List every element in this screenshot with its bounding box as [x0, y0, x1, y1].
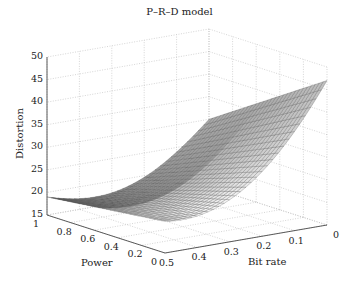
- x-tick: 0.2: [256, 240, 271, 251]
- y-tick: 1: [33, 218, 39, 229]
- z-tick: 50: [31, 50, 43, 61]
- z-tick: 35: [31, 118, 43, 129]
- z-tick: 40: [31, 95, 43, 106]
- x-tick: 0.3: [224, 246, 239, 257]
- x-tick: 0.4: [191, 251, 206, 262]
- surface-plot: [0, 0, 359, 286]
- y-tick: 0.6: [80, 233, 95, 244]
- z-tick: 45: [31, 73, 43, 84]
- z-tick: 25: [31, 163, 43, 174]
- z-tick: 30: [31, 140, 43, 151]
- y-tick: 0.8: [57, 226, 72, 237]
- x-axis-label: Bit rate: [248, 256, 286, 267]
- y-tick: 0.2: [127, 248, 142, 259]
- y-tick: 0: [151, 256, 157, 267]
- x-tick: 0: [333, 229, 339, 240]
- y-axis-label: Power: [81, 257, 113, 268]
- chart-title: P–R–D model: [0, 6, 359, 17]
- z-tick: 20: [31, 185, 43, 196]
- x-tick: 0.5: [159, 257, 174, 268]
- y-tick: 0.4: [104, 241, 119, 252]
- z-axis-label: Distortion: [14, 108, 25, 159]
- x-tick: 0.1: [289, 235, 304, 246]
